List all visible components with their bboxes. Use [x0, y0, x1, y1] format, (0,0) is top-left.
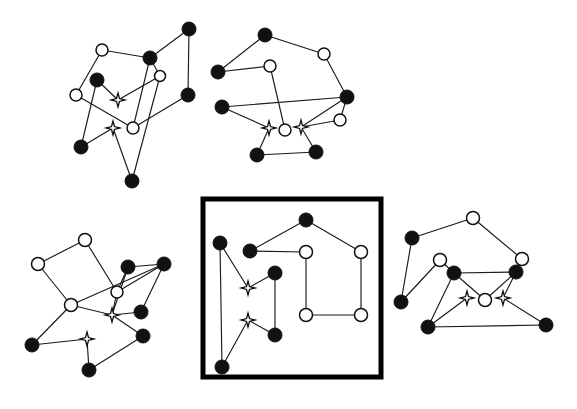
graph-edge	[220, 243, 222, 367]
panel-border-panel-center-boxed	[203, 199, 381, 377]
graph-edge	[428, 325, 546, 327]
graph-edge	[218, 66, 270, 72]
panel-boxes-layer	[203, 199, 381, 377]
hollow-circle-node	[479, 294, 492, 307]
filled-circle-node	[394, 295, 408, 309]
filled-circle-node	[421, 320, 435, 334]
filled-circle-node	[509, 265, 523, 279]
filled-circle-node	[82, 363, 96, 377]
filled-circle-node	[340, 90, 354, 104]
hollow-circle-node	[300, 309, 313, 322]
hollow-circle-node	[96, 44, 108, 56]
graph-edge	[250, 251, 306, 252]
star-node-icon	[105, 308, 119, 322]
filled-circle-node	[215, 100, 229, 114]
graph-edge	[306, 220, 361, 252]
graph-edge	[270, 66, 285, 130]
graph-edge	[89, 336, 143, 370]
hollow-circle-node	[127, 122, 139, 134]
graph-edge	[265, 35, 324, 54]
graph-edge	[81, 80, 97, 147]
star-node-icon	[106, 121, 120, 135]
graph-edge	[38, 240, 85, 264]
graph-edge	[412, 218, 473, 238]
star-node-icon	[460, 291, 474, 305]
graph-edge	[32, 339, 87, 345]
star-node-icon	[294, 120, 308, 134]
figure-root	[0, 0, 577, 409]
graph-edge	[454, 272, 516, 273]
filled-circle-node	[405, 231, 419, 245]
graph-edge	[85, 240, 117, 292]
graph-edge	[133, 95, 188, 128]
hollow-circle-node	[334, 114, 346, 126]
filled-circle-node	[136, 329, 150, 343]
filled-circle-node	[134, 305, 148, 319]
hollow-circle-node	[355, 309, 368, 322]
hollow-circle-node	[155, 71, 166, 82]
hollow-circle-node	[264, 60, 276, 72]
filled-circle-node	[211, 65, 225, 79]
filled-circle-node	[258, 28, 272, 42]
filled-circle-node	[90, 73, 104, 87]
star-node-icon	[80, 332, 94, 346]
hollow-circle-node	[70, 89, 82, 101]
filled-circle-node	[182, 22, 196, 36]
graph-figure-canvas	[0, 0, 577, 409]
hollow-circle-node	[516, 253, 529, 266]
graph-edge	[32, 305, 71, 345]
filled-circle-node	[181, 88, 195, 102]
hollow-circle-node	[434, 254, 447, 267]
filled-circle-node	[143, 51, 157, 65]
graph-edge	[38, 264, 71, 305]
star-node-icon	[496, 291, 510, 305]
hollow-circle-node	[467, 212, 480, 225]
hollow-circle-node	[318, 48, 330, 60]
filled-circle-node	[215, 360, 229, 374]
filled-circle-node	[268, 266, 282, 280]
hollow-circle-node	[355, 246, 368, 259]
star-node-icon	[241, 281, 255, 295]
graph-edge	[133, 58, 150, 128]
filled-circle-node	[299, 213, 313, 227]
graph-edge	[188, 29, 189, 95]
filled-circle-node	[447, 266, 461, 280]
star-node-icon	[262, 121, 276, 135]
hollow-circle-node	[279, 124, 291, 136]
filled-circle-node	[213, 236, 227, 250]
graph-edge	[113, 128, 132, 181]
filled-circle-node	[250, 148, 264, 162]
graph-edge	[218, 35, 265, 72]
graph-edge	[222, 107, 269, 128]
graph-edge	[222, 320, 248, 367]
graph-edge	[428, 273, 454, 327]
filled-circle-node	[25, 338, 39, 352]
graph-edge	[76, 50, 102, 95]
filled-circle-node	[74, 140, 88, 154]
filled-circle-node	[121, 260, 135, 274]
graph-edge	[473, 218, 522, 259]
graph-edge	[118, 76, 160, 100]
filled-circle-node	[539, 318, 553, 332]
hollow-circle-node	[111, 286, 123, 298]
graph-edge	[503, 298, 546, 325]
hollow-circle-node	[79, 234, 92, 247]
star-node-icon	[241, 313, 255, 327]
filled-circle-node	[268, 328, 282, 342]
filled-circle-node	[125, 174, 139, 188]
hollow-circle-node	[300, 246, 313, 259]
graph-edge	[257, 152, 316, 155]
filled-circle-node	[243, 244, 257, 258]
graph-edge	[250, 220, 306, 251]
hollow-circle-node	[32, 258, 45, 271]
filled-circle-node	[157, 257, 171, 271]
hollow-circle-node	[65, 299, 78, 312]
filled-circle-node	[309, 145, 323, 159]
graph-edge	[222, 97, 347, 107]
